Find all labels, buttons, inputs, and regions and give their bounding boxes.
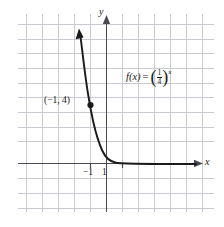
x-tick-label-neg1: −1: [83, 167, 93, 177]
x-tick-label-1: 1: [102, 167, 107, 177]
axes: [18, 15, 203, 212]
x-axis-label: x: [205, 156, 209, 167]
curve-arrowhead: [76, 29, 84, 40]
y-axis-arrowhead: [103, 15, 110, 24]
y-axis-label: y: [99, 6, 103, 17]
plot-canvas: [0, 0, 224, 227]
grid-lines: [18, 14, 214, 212]
point-marker: [87, 102, 93, 108]
equals-sign: =: [141, 71, 151, 82]
graph-figure: f(x)=(14)x (−1, 4) y x −1 1: [0, 0, 224, 227]
function-formula-label: f(x)=(14)x: [126, 68, 171, 86]
annotation-point: [87, 102, 93, 108]
point-coordinate-label: (−1, 4): [44, 95, 70, 105]
function-name: f(x): [126, 71, 141, 82]
exponent: x: [168, 68, 171, 76]
function-curve: [76, 29, 196, 165]
